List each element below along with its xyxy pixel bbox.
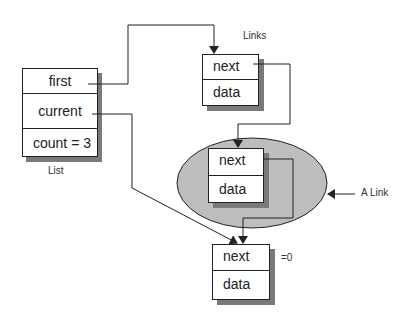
node-1-next: next — [203, 57, 258, 81]
null-caption: =0 — [281, 252, 292, 263]
node-3-next: next — [213, 247, 269, 271]
node-1: next data — [202, 54, 259, 106]
list-field-count: count = 3 — [23, 128, 97, 158]
list-field-current: current — [23, 93, 97, 129]
a-link-caption: A Link — [361, 187, 388, 198]
node-1-data: data — [203, 79, 258, 107]
node-3-data: data — [213, 270, 269, 301]
links-caption: Links — [243, 30, 266, 41]
list-box: first current count = 3 — [22, 68, 98, 157]
node-2-data: data — [209, 175, 263, 204]
node-2-next: next — [209, 151, 263, 176]
node-2: next data — [208, 148, 264, 203]
list-caption: List — [48, 165, 64, 176]
node-3: next data — [212, 244, 270, 300]
linked-list-diagram: first current count = 3 List Links next … — [0, 0, 412, 320]
